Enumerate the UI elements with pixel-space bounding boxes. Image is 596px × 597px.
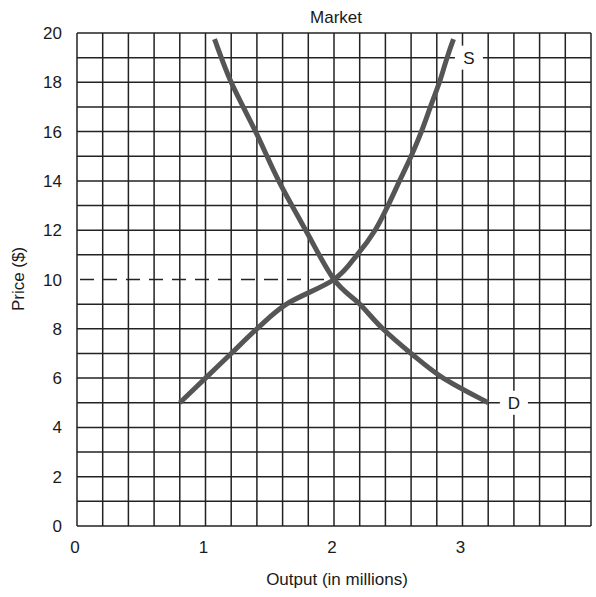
curve-label-s: S bbox=[463, 49, 474, 68]
x-axis-ticks: 0123 bbox=[70, 538, 465, 557]
x-tick-label: 3 bbox=[456, 538, 465, 557]
y-tick-label: 20 bbox=[43, 24, 62, 43]
y-tick-label: 0 bbox=[53, 517, 62, 536]
curve-label-d: D bbox=[508, 394, 520, 413]
y-tick-label: 6 bbox=[53, 369, 62, 388]
demand-curve bbox=[215, 39, 489, 403]
y-tick-label: 12 bbox=[43, 221, 62, 240]
y-tick-label: 4 bbox=[53, 418, 62, 437]
y-tick-label: 16 bbox=[43, 123, 62, 142]
chart-title: Market bbox=[310, 8, 362, 27]
y-tick-label: 10 bbox=[43, 271, 62, 290]
supply-curve bbox=[180, 39, 454, 403]
y-axis-ticks: 02468101214161820 bbox=[43, 24, 62, 536]
x-tick-label: 0 bbox=[70, 538, 79, 557]
y-axis-label: Price ($) bbox=[9, 247, 28, 311]
x-tick-label: 2 bbox=[327, 538, 336, 557]
market-chart: Market SD 02468101214161820 0123 Output … bbox=[0, 0, 596, 597]
x-tick-label: 1 bbox=[199, 538, 208, 557]
y-tick-label: 14 bbox=[43, 172, 62, 191]
x-axis-label: Output (in millions) bbox=[266, 570, 408, 589]
y-tick-label: 18 bbox=[43, 73, 62, 92]
y-tick-label: 2 bbox=[53, 468, 62, 487]
y-tick-label: 8 bbox=[53, 320, 62, 339]
